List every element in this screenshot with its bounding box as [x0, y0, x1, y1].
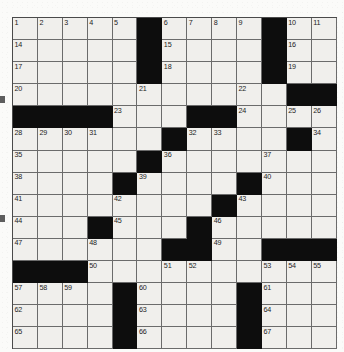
grid-open-cell[interactable]: 23	[113, 106, 138, 128]
grid-open-cell[interactable]	[38, 62, 63, 84]
grid-open-cell[interactable]: 58	[38, 283, 63, 305]
grid-open-cell[interactable]	[187, 173, 212, 195]
grid-open-cell[interactable]	[162, 106, 187, 128]
grid-open-cell[interactable]: 21	[137, 84, 162, 106]
grid-open-cell[interactable]: 48	[88, 239, 113, 261]
grid-open-cell[interactable]	[63, 62, 88, 84]
grid-open-cell[interactable]: 57	[13, 283, 38, 305]
grid-open-cell[interactable]	[212, 327, 237, 349]
grid-open-cell[interactable]: 49	[212, 239, 237, 261]
grid-open-cell[interactable]: 34	[312, 128, 337, 150]
grid-open-cell[interactable]	[113, 128, 138, 150]
grid-open-cell[interactable]: 24	[237, 106, 262, 128]
grid-open-cell[interactable]	[212, 305, 237, 327]
grid-open-cell[interactable]	[262, 106, 287, 128]
grid-open-cell[interactable]: 15	[162, 40, 187, 62]
grid-open-cell[interactable]	[88, 62, 113, 84]
grid-open-cell[interactable]	[63, 327, 88, 349]
grid-open-cell[interactable]: 54	[287, 261, 312, 283]
grid-open-cell[interactable]	[162, 173, 187, 195]
grid-open-cell[interactable]: 64	[262, 305, 287, 327]
grid-open-cell[interactable]	[162, 84, 187, 106]
grid-open-cell[interactable]	[312, 40, 337, 62]
grid-open-cell[interactable]	[113, 62, 138, 84]
grid-open-cell[interactable]	[113, 151, 138, 173]
grid-open-cell[interactable]	[312, 195, 337, 217]
grid-open-cell[interactable]	[88, 173, 113, 195]
grid-open-cell[interactable]	[113, 84, 138, 106]
grid-open-cell[interactable]: 5	[113, 18, 138, 40]
grid-open-cell[interactable]	[162, 195, 187, 217]
grid-open-cell[interactable]	[63, 195, 88, 217]
grid-open-cell[interactable]	[113, 261, 138, 283]
grid-open-cell[interactable]: 29	[38, 128, 63, 150]
grid-open-cell[interactable]	[187, 195, 212, 217]
grid-open-cell[interactable]	[287, 327, 312, 349]
grid-open-cell[interactable]: 22	[237, 84, 262, 106]
grid-open-cell[interactable]	[162, 283, 187, 305]
grid-open-cell[interactable]: 43	[237, 195, 262, 217]
grid-open-cell[interactable]	[237, 40, 262, 62]
grid-open-cell[interactable]	[287, 151, 312, 173]
grid-open-cell[interactable]	[88, 283, 113, 305]
grid-open-cell[interactable]: 63	[137, 305, 162, 327]
grid-open-cell[interactable]	[187, 84, 212, 106]
grid-open-cell[interactable]	[137, 106, 162, 128]
grid-open-cell[interactable]	[287, 283, 312, 305]
grid-open-cell[interactable]	[187, 40, 212, 62]
grid-open-cell[interactable]: 67	[262, 327, 287, 349]
grid-open-cell[interactable]	[162, 327, 187, 349]
grid-open-cell[interactable]: 17	[13, 62, 38, 84]
grid-open-cell[interactable]	[262, 128, 287, 150]
grid-open-cell[interactable]	[287, 173, 312, 195]
grid-open-cell[interactable]	[212, 151, 237, 173]
grid-open-cell[interactable]	[63, 305, 88, 327]
grid-open-cell[interactable]: 46	[212, 217, 237, 239]
grid-open-cell[interactable]	[312, 305, 337, 327]
grid-open-cell[interactable]	[312, 217, 337, 239]
grid-open-cell[interactable]	[287, 305, 312, 327]
grid-open-cell[interactable]: 8	[212, 18, 237, 40]
grid-open-cell[interactable]	[88, 195, 113, 217]
grid-open-cell[interactable]: 36	[162, 151, 187, 173]
grid-open-cell[interactable]: 33	[212, 128, 237, 150]
grid-open-cell[interactable]: 42	[113, 195, 138, 217]
grid-open-cell[interactable]: 59	[63, 283, 88, 305]
grid-open-cell[interactable]: 32	[187, 128, 212, 150]
grid-open-cell[interactable]	[237, 239, 262, 261]
grid-open-cell[interactable]: 35	[13, 151, 38, 173]
grid-open-cell[interactable]: 41	[13, 195, 38, 217]
grid-open-cell[interactable]: 61	[262, 283, 287, 305]
grid-open-cell[interactable]	[187, 305, 212, 327]
grid-open-cell[interactable]	[212, 40, 237, 62]
grid-open-cell[interactable]: 60	[137, 283, 162, 305]
grid-open-cell[interactable]: 4	[88, 18, 113, 40]
grid-open-cell[interactable]: 55	[312, 261, 337, 283]
grid-open-cell[interactable]	[212, 62, 237, 84]
grid-open-cell[interactable]: 53	[262, 261, 287, 283]
grid-open-cell[interactable]	[262, 217, 287, 239]
grid-open-cell[interactable]	[38, 40, 63, 62]
grid-open-cell[interactable]	[187, 327, 212, 349]
grid-open-cell[interactable]: 26	[312, 106, 337, 128]
grid-open-cell[interactable]: 52	[187, 261, 212, 283]
grid-open-cell[interactable]	[262, 84, 287, 106]
grid-open-cell[interactable]: 3	[63, 18, 88, 40]
grid-open-cell[interactable]	[312, 173, 337, 195]
grid-open-cell[interactable]	[38, 327, 63, 349]
grid-open-cell[interactable]	[63, 239, 88, 261]
grid-open-cell[interactable]	[212, 84, 237, 106]
grid-open-cell[interactable]	[237, 151, 262, 173]
crossword-grid[interactable]: 1234567891011141516171819202122232425262…	[12, 17, 337, 349]
grid-open-cell[interactable]	[88, 305, 113, 327]
grid-open-cell[interactable]: 28	[13, 128, 38, 150]
grid-open-cell[interactable]	[38, 239, 63, 261]
grid-open-cell[interactable]	[113, 239, 138, 261]
grid-open-cell[interactable]	[63, 151, 88, 173]
grid-open-cell[interactable]: 62	[13, 305, 38, 327]
grid-open-cell[interactable]: 20	[13, 84, 38, 106]
grid-open-cell[interactable]	[312, 327, 337, 349]
grid-open-cell[interactable]: 50	[88, 261, 113, 283]
grid-open-cell[interactable]: 11	[312, 18, 337, 40]
grid-open-cell[interactable]	[162, 217, 187, 239]
